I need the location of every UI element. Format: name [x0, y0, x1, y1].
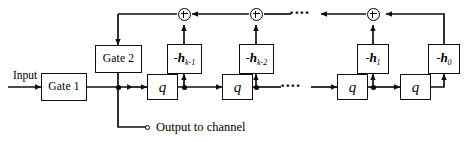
delay-block-q2[interactable]: q [222, 74, 253, 100]
delay-q4-label: q [412, 80, 420, 95]
tap-block-h-k-1[interactable]: -hk-1 [167, 44, 202, 74]
wire-q4-to-h0 [431, 74, 444, 87]
tap-h-k-1-symbol: h [178, 50, 185, 65]
tap-h-k-2-symbol: h [250, 50, 257, 65]
adder-node-3[interactable] [367, 8, 380, 21]
tap-h-k-1-label: -hk-1 [174, 51, 195, 67]
output-label: Output to channel [156, 121, 246, 134]
tap-block-h-k-2[interactable]: -hk-2 [239, 44, 274, 74]
tap-h-0-symbol: h [440, 50, 447, 65]
wire-bus-to-output [118, 87, 146, 127]
gate-1-block[interactable]: Gate 1 [41, 73, 87, 101]
mid-ellipsis: •••• [281, 82, 302, 91]
tap-block-h-1[interactable]: -h1 [357, 44, 389, 74]
junction-bus-gate2 [116, 85, 121, 90]
adder-node-2[interactable] [250, 8, 263, 21]
tap-h-1-subscript: 1 [377, 58, 381, 67]
delay-block-q4[interactable]: q [400, 74, 431, 100]
tap-h-k-1-subscript: k-1 [185, 58, 195, 67]
input-label: Input [13, 70, 37, 82]
tap-h-0-label: -h0 [436, 51, 451, 67]
tap-h-1-label: -h1 [365, 51, 380, 67]
gate-2-block[interactable]: Gate 2 [95, 45, 142, 73]
tap-h-1-symbol: h [369, 50, 376, 65]
delay-q2-label: q [234, 80, 242, 95]
output-terminal-dot[interactable] [145, 125, 150, 130]
gate-2-label: Gate 2 [103, 53, 135, 65]
wire-h0-to-toprail [386, 14, 444, 44]
junction-bus-tap-h-1 [371, 85, 376, 90]
top-ellipsis: •••• [290, 9, 311, 18]
delay-q1-label: q [159, 80, 167, 95]
junction-bus-tap-h-k-2 [254, 85, 259, 90]
delay-q3-label: q [349, 80, 357, 95]
adder-node-1[interactable] [178, 8, 191, 21]
gate-1-label: Gate 1 [48, 81, 80, 93]
tap-block-h-0[interactable]: -h0 [428, 44, 460, 74]
tap-h-k-2-label: -hk-2 [246, 51, 267, 67]
tap-h-0-subscript: 0 [448, 58, 452, 67]
junction-bus-tap-h-k-1 [182, 85, 187, 90]
tap-h-k-2-subscript: k-2 [257, 58, 267, 67]
delay-block-q1[interactable]: q [147, 74, 178, 100]
precoder-diagram: Gate 1 Gate 2 q q q q -hk-1 -hk-2 -h1 -h… [0, 0, 471, 142]
delay-block-q3[interactable]: q [337, 74, 368, 100]
